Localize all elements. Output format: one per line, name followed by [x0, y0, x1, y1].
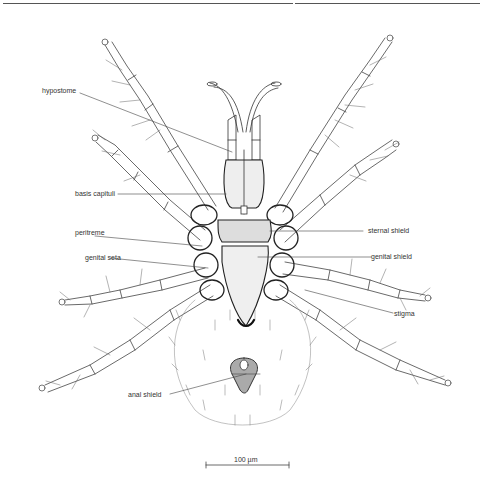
genital-shield-shape [222, 246, 268, 326]
label-stigma: stigma [394, 310, 415, 318]
leg-III-right [283, 262, 425, 301]
label-hypostome: hypostome [42, 87, 76, 95]
leg-I-right [275, 38, 392, 212]
chelicerae [207, 82, 281, 132]
anus [240, 360, 248, 370]
label-genital-seta: genital seta [85, 254, 121, 262]
leg-IV-left [45, 285, 213, 392]
leg-IV-right [276, 285, 445, 385]
label-sternal-shield: sternal shield [368, 227, 409, 235]
sternal-shield-shape [218, 220, 271, 242]
label-basis-capituli: basis capituli [75, 190, 115, 198]
label-genital-shield: genital shield [371, 253, 412, 261]
mite-illustration [0, 0, 482, 489]
leader-lines [80, 93, 393, 394]
leg-II-left [96, 135, 205, 240]
leg-I-left [105, 42, 216, 210]
scale-bar-label: 100 µm [234, 456, 258, 463]
tritosternum [241, 206, 247, 214]
label-anal-shield: anal shield [128, 391, 161, 399]
label-peritreme: peritreme [75, 229, 105, 237]
